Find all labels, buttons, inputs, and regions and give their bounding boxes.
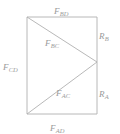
label-force-ac-base: F — [56, 88, 62, 98]
label-reaction-a: RA — [99, 84, 109, 100]
label-force-ac: FAC — [56, 83, 70, 99]
member-upper-diagonal — [27, 17, 97, 62]
label-reaction-b: RB — [99, 26, 109, 42]
label-force-ac-subscript: AC — [62, 92, 71, 99]
label-force-bd-subscript: BD — [60, 10, 69, 17]
label-reaction-b-base: R — [99, 31, 105, 41]
label-force-bc: FBC — [45, 33, 59, 49]
label-force-ad-subscript: AD — [56, 127, 65, 134]
label-force-bc-base: F — [45, 38, 51, 48]
label-force-cd: FCD — [3, 57, 18, 73]
force-diagram: FBD FCD RB RA FAD FBC FAC — [0, 0, 120, 134]
label-reaction-a-base: R — [99, 89, 105, 99]
diagram-canvas — [0, 0, 120, 134]
label-reaction-a-subscript: A — [105, 93, 109, 100]
label-force-cd-subscript: CD — [9, 66, 18, 73]
label-force-cd-base: F — [3, 62, 9, 72]
label-force-bd: FBD — [54, 1, 68, 17]
label-reaction-b-subscript: B — [105, 35, 109, 42]
label-force-ad-base: F — [50, 123, 56, 133]
label-force-bd-base: F — [54, 6, 60, 16]
label-force-bc-subscript: BC — [51, 42, 60, 49]
label-force-ad: FAD — [50, 118, 64, 134]
